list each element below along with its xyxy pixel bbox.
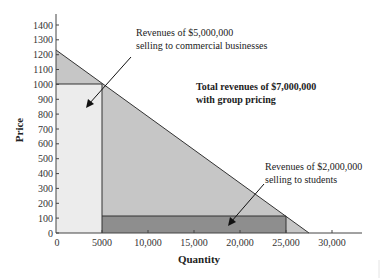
svg-text:100: 100	[38, 213, 53, 224]
svg-text:400: 400	[38, 168, 53, 179]
y-tick-labels: 0 100 200 300 400 500 600 700 800 900 10…	[33, 20, 53, 239]
annotation-students-line2: selling to students	[265, 174, 337, 185]
svg-text:0: 0	[48, 228, 53, 239]
annotation-total-line1: Total revenues of $7,000,000	[196, 81, 316, 92]
svg-text:500: 500	[38, 153, 53, 164]
y-axis-title: Price	[13, 118, 25, 143]
x-tick-labels: 0 5000 10,000 15,000 20,000 25,000 30,00…	[55, 237, 346, 248]
group-pricing-chart: 0 100 200 300 400 500 600 700 800 900 10…	[0, 0, 390, 280]
svg-text:15,000: 15,000	[180, 237, 208, 248]
annotation-commercial-line1: Revenues of $5,000,000	[136, 27, 233, 38]
svg-text:1300: 1300	[33, 34, 53, 45]
svg-text:200: 200	[38, 198, 53, 209]
svg-text:300: 300	[38, 183, 53, 194]
svg-text:700: 700	[38, 124, 53, 135]
svg-text:1100: 1100	[33, 64, 53, 75]
commercial-revenue-region	[56, 84, 102, 233]
svg-text:1200: 1200	[33, 49, 53, 60]
svg-text:600: 600	[38, 138, 53, 149]
svg-text:800: 800	[38, 109, 53, 120]
svg-text:5000: 5000	[92, 237, 112, 248]
annotation-students-line1: Revenues of $2,000,000	[265, 161, 362, 172]
svg-text:1000: 1000	[33, 79, 53, 90]
svg-text:25,000: 25,000	[272, 237, 300, 248]
svg-text:10,000: 10,000	[134, 237, 162, 248]
svg-text:900: 900	[38, 94, 53, 105]
svg-text:0: 0	[55, 237, 60, 248]
x-axis-title: Quantity	[178, 253, 221, 265]
svg-text:1400: 1400	[33, 20, 53, 31]
annotation-total-line2: with group pricing	[196, 94, 276, 105]
svg-text:30,000: 30,000	[318, 237, 346, 248]
svg-text:20,000: 20,000	[226, 237, 254, 248]
annotation-commercial-line2: selling to commercial businesses	[136, 40, 267, 51]
